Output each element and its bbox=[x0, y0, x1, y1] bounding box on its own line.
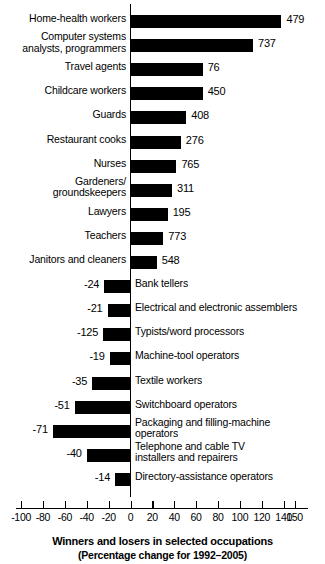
category-label: Teachers bbox=[2, 230, 126, 242]
category-label: Telephone and cable TV installers and re… bbox=[135, 441, 325, 464]
category-label: Computer systems analysts, programmers bbox=[2, 31, 126, 54]
chart-subtitle: (Percentage change for 1992–2005) bbox=[0, 548, 325, 562]
chart-row: Restaurant cooks276 bbox=[0, 134, 325, 160]
bar bbox=[131, 136, 181, 149]
axis-tick-label: 150 bbox=[278, 511, 312, 523]
chart-row: Lawyers195 bbox=[0, 206, 325, 232]
axis-baseline bbox=[16, 508, 308, 509]
axis-tick bbox=[295, 501, 296, 509]
chart-row: Bank tellers-24 bbox=[0, 278, 325, 304]
value-label: 195 bbox=[173, 206, 191, 219]
category-label: Lawyers bbox=[2, 206, 126, 218]
bar bbox=[131, 232, 164, 245]
axis-tick bbox=[196, 501, 197, 509]
axis-tick bbox=[131, 501, 132, 509]
value-label: -51 bbox=[30, 399, 70, 412]
bar bbox=[131, 87, 203, 100]
value-label: 737 bbox=[258, 37, 276, 50]
bar bbox=[131, 256, 157, 269]
bar-chart: Home-health workers479Computer systems a… bbox=[0, 0, 325, 564]
bar bbox=[131, 39, 254, 52]
chart-row: Janitors and cleaners548 bbox=[0, 254, 325, 280]
chart-caption: Winners and losers in selected occupatio… bbox=[0, 534, 325, 562]
value-label: 773 bbox=[168, 230, 186, 243]
bar bbox=[87, 449, 131, 462]
category-label: Packaging and filling-machine operators bbox=[135, 417, 325, 440]
axis-tick bbox=[240, 501, 241, 509]
value-label: 548 bbox=[162, 254, 180, 267]
axis-tick bbox=[152, 501, 153, 509]
chart-row: Typists/word processors-125 bbox=[0, 326, 325, 352]
bar bbox=[104, 280, 130, 293]
category-label: Nurses bbox=[2, 158, 126, 170]
value-label: -125 bbox=[58, 326, 98, 339]
category-label: Switchboard operators bbox=[135, 399, 325, 411]
chart-row: Telephone and cable TV installers and re… bbox=[0, 447, 325, 473]
bar bbox=[110, 352, 131, 365]
chart-row: Guards408 bbox=[0, 109, 325, 135]
plot-area: Home-health workers479Computer systems a… bbox=[0, 0, 325, 497]
value-label: -14 bbox=[70, 471, 110, 484]
value-label: 450 bbox=[208, 85, 226, 98]
axis-tick bbox=[43, 501, 44, 509]
axis-tick bbox=[21, 501, 22, 509]
value-label: 765 bbox=[181, 158, 199, 171]
value-label: -19 bbox=[65, 350, 105, 363]
category-label: Janitors and cleaners bbox=[2, 254, 126, 266]
value-label: -35 bbox=[47, 375, 87, 388]
chart-row: Childcare workers450 bbox=[0, 85, 325, 111]
value-label: -24 bbox=[59, 278, 99, 291]
axis-tick bbox=[109, 501, 110, 509]
chart-row: Electrical and electronic assemblers-21 bbox=[0, 302, 325, 328]
axis-tick bbox=[87, 501, 88, 509]
bar bbox=[108, 304, 131, 317]
value-label: -71 bbox=[8, 423, 48, 436]
bar bbox=[115, 473, 130, 486]
axis-tick bbox=[174, 501, 175, 509]
chart-row: Directory-assistance operators-14 bbox=[0, 471, 325, 497]
category-label: Typists/word processors bbox=[135, 326, 325, 338]
chart-row: Machine-tool operators-19 bbox=[0, 350, 325, 376]
value-label: 408 bbox=[191, 109, 209, 122]
category-label: Electrical and electronic assemblers bbox=[135, 302, 325, 314]
axis-tick bbox=[65, 501, 66, 509]
category-label: Childcare workers bbox=[2, 85, 126, 97]
value-label: 311 bbox=[177, 182, 194, 195]
bar bbox=[131, 184, 173, 197]
chart-row: Gardeners/ groundskeepers311 bbox=[0, 182, 325, 208]
chart-row: Teachers773 bbox=[0, 230, 325, 256]
category-label: Machine-tool operators bbox=[135, 350, 325, 362]
value-label: 479 bbox=[286, 13, 304, 26]
bar bbox=[131, 160, 177, 173]
chart-row: Computer systems analysts, programmers73… bbox=[0, 37, 325, 63]
value-label: 76 bbox=[208, 61, 220, 74]
category-label: Textile workers bbox=[135, 375, 325, 387]
category-label: Directory-assistance operators bbox=[135, 471, 325, 483]
axis-tick bbox=[262, 501, 263, 509]
bar bbox=[103, 328, 130, 341]
bar bbox=[131, 63, 203, 76]
x-axis: -100-80-60-40-20020406080100120140150 Wi… bbox=[0, 497, 325, 564]
chart-title: Winners and losers in selected occupatio… bbox=[0, 534, 325, 548]
chart-row: Travel agents76 bbox=[0, 61, 325, 87]
category-label: Travel agents bbox=[2, 61, 126, 73]
category-label: Bank tellers bbox=[135, 278, 325, 290]
category-label: Gardeners/ groundskeepers bbox=[2, 176, 126, 199]
value-label: -40 bbox=[42, 447, 82, 460]
bar bbox=[53, 425, 131, 438]
axis-tick bbox=[218, 501, 219, 509]
value-label: -21 bbox=[63, 302, 103, 315]
bar bbox=[131, 208, 168, 221]
bar bbox=[75, 401, 131, 414]
category-label: Guards bbox=[2, 109, 126, 121]
category-label: Restaurant cooks bbox=[2, 134, 126, 146]
axis-tick bbox=[284, 501, 285, 509]
value-label: 276 bbox=[186, 134, 204, 147]
bar bbox=[92, 377, 130, 390]
chart-row: Textile workers-35 bbox=[0, 375, 325, 401]
bar bbox=[131, 15, 282, 28]
bar bbox=[131, 111, 187, 124]
category-label: Home-health workers bbox=[2, 13, 126, 25]
